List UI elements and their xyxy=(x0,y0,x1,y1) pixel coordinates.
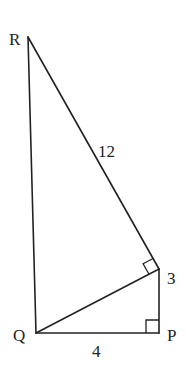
vertex-label-P: P xyxy=(167,326,176,345)
vertex-label-R: R xyxy=(9,30,21,49)
segment-QS xyxy=(36,269,159,333)
segment-label-RS: 12 xyxy=(98,142,115,161)
segment-RS xyxy=(28,37,159,269)
vertex-label-Q: Q xyxy=(13,326,25,345)
segment-label-SP: 3 xyxy=(167,269,176,288)
segment-RQ xyxy=(28,37,36,333)
segment-label-QP: 4 xyxy=(92,342,101,361)
right-angle-mark-S xyxy=(143,259,153,275)
right-angle-mark-P xyxy=(146,320,159,333)
triangle-diagram: R Q P 12 3 4 xyxy=(0,0,187,373)
